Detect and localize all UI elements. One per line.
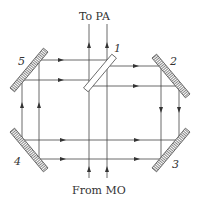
arrow-right-icon [58, 78, 64, 82]
arrow-up-icon [20, 102, 24, 108]
label-3: 3 [172, 158, 179, 171]
arrow-down-icon [159, 107, 163, 113]
label-5: 5 [18, 55, 25, 68]
label-1: 1 [114, 42, 121, 55]
label-to-pa: To PA [79, 10, 111, 23]
arrow-right-icon [133, 64, 139, 68]
diagram-canvas: To PA From MO 1 2 3 4 5 [0, 0, 200, 198]
arrow-down-icon [177, 107, 181, 113]
arrow-right-icon [58, 58, 64, 62]
label-from-mo: From MO [72, 184, 126, 197]
label-4: 4 [13, 155, 21, 168]
arrow-right-icon [133, 84, 139, 88]
arrow-up-icon [105, 166, 109, 172]
arrow-up-icon [105, 42, 109, 48]
arrow-up-icon [87, 166, 91, 172]
arrow-right-icon [134, 157, 140, 161]
arrow-right-icon [60, 157, 66, 161]
label-2: 2 [169, 55, 177, 68]
arrow-up-icon [37, 102, 41, 108]
arrow-right-icon [60, 138, 66, 142]
arrow-right-icon [134, 138, 140, 142]
arrow-up-icon [87, 42, 91, 48]
beam-paths [22, 24, 179, 178]
optical-diagram: To PA From MO 1 2 3 4 5 [0, 0, 200, 198]
mirror-5 [10, 48, 48, 92]
mirror-3 [152, 128, 190, 172]
